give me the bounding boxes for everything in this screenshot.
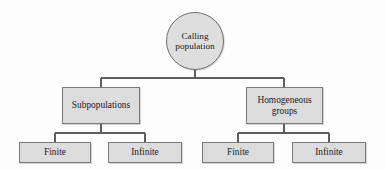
node-homogeneous-finite-label: Finite	[225, 147, 251, 158]
node-subpopulations-finite[interactable]: Finite	[19, 142, 91, 163]
node-subpopulations-infinite[interactable]: Infinite	[108, 142, 182, 163]
node-homogeneous-finite[interactable]: Finite	[202, 142, 274, 163]
node-homogeneous-infinite[interactable]: Infinite	[292, 142, 366, 163]
node-homogeneous-infinite-label: Infinite	[313, 147, 345, 158]
node-subpopulations-finite-label: Finite	[42, 147, 68, 158]
node-homogeneous-groups[interactable]: Homogeneous groups	[246, 87, 323, 124]
node-subpopulations-label: Subpopulations	[70, 100, 132, 111]
hierarchy-diagram: Calling population Subpopulations Homoge…	[0, 0, 385, 169]
node-calling-population-label: Calling population	[173, 31, 216, 52]
node-homogeneous-groups-label: Homogeneous groups	[255, 95, 313, 116]
node-calling-population[interactable]: Calling population	[166, 12, 224, 70]
node-subpopulations[interactable]: Subpopulations	[62, 87, 140, 124]
node-subpopulations-infinite-label: Infinite	[129, 147, 161, 158]
